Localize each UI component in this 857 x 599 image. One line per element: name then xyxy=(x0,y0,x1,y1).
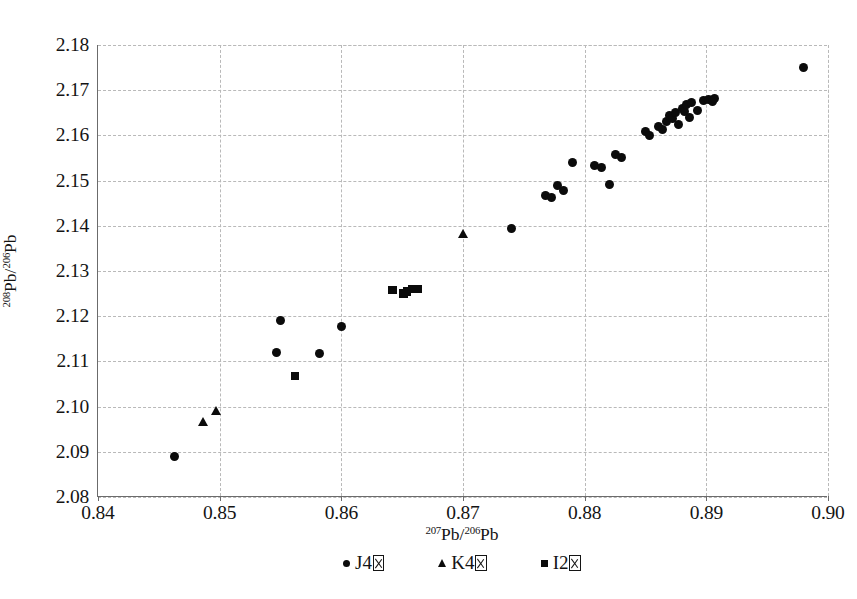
data-point-j4 xyxy=(507,224,516,233)
x-axis-title: 207Pb/206Pb xyxy=(97,524,827,545)
data-point-i2 xyxy=(414,285,423,294)
data-point-j4 xyxy=(315,349,324,358)
y-axis-tick-label: 2.17 xyxy=(56,79,98,101)
data-point-j4 xyxy=(337,322,346,331)
data-point-j4 xyxy=(276,316,285,325)
data-point-j4 xyxy=(674,120,683,129)
x-axis-tick-label: 0.84 xyxy=(81,496,114,524)
x-axis-title-isotope-207: 207 xyxy=(425,524,441,536)
square-marker-icon xyxy=(541,560,548,567)
data-point-k4 xyxy=(458,229,468,238)
x-axis-tick-label: 0.86 xyxy=(325,496,358,524)
y-axis-title: 208Pb/206Pb xyxy=(0,45,26,497)
data-point-j4 xyxy=(272,348,281,357)
legend-item-label: I2 xyxy=(553,552,581,574)
y-axis-tick-label: 2.13 xyxy=(56,260,98,282)
legend-item-j4[interactable]: J4 xyxy=(343,552,384,574)
triangle-marker-icon xyxy=(438,559,446,567)
scatter-plot-figure: 2.082.092.102.112.122.132.142.152.162.17… xyxy=(0,0,857,599)
data-point-j4 xyxy=(597,163,606,172)
chart-legend: J4K4I2 xyxy=(97,552,827,574)
missing-glyph-icon xyxy=(569,555,581,571)
y-axis-tick-label: 2.09 xyxy=(56,441,98,463)
gridline-vertical xyxy=(585,45,586,496)
data-point-j4 xyxy=(799,63,808,72)
x-axis-title-pb-end: Pb xyxy=(480,524,498,544)
missing-glyph-icon xyxy=(373,555,385,571)
data-point-j4 xyxy=(658,125,667,134)
y-axis-title-isotope-208: 208 xyxy=(0,292,12,308)
gridline-vertical xyxy=(706,45,707,496)
legend-item-label: J4 xyxy=(355,552,384,574)
data-point-k4 xyxy=(211,406,221,415)
gridline-vertical xyxy=(220,45,221,496)
gridline-vertical xyxy=(828,45,829,496)
x-axis-tick-label: 0.87 xyxy=(446,496,479,524)
y-axis-tick-label: 2.18 xyxy=(56,34,98,56)
missing-glyph-icon xyxy=(475,555,487,571)
x-axis-tick-label: 0.89 xyxy=(690,496,723,524)
data-point-j4 xyxy=(693,106,702,115)
data-point-j4 xyxy=(559,186,568,195)
data-point-j4 xyxy=(547,193,556,202)
data-point-j4 xyxy=(645,131,654,140)
y-axis-tick-label: 2.14 xyxy=(56,215,98,237)
data-point-i2 xyxy=(388,286,397,295)
y-axis-title-pb-end: Pb xyxy=(0,234,20,252)
y-axis-tick-label: 2.15 xyxy=(56,170,98,192)
gridline-horizontal xyxy=(98,45,827,46)
x-axis-tick-label: 0.85 xyxy=(203,496,236,524)
x-axis-title-pb-slash: Pb/ xyxy=(441,524,464,544)
data-point-k4 xyxy=(198,417,208,426)
data-point-i2 xyxy=(291,372,300,381)
legend-item-i2[interactable]: I2 xyxy=(541,552,581,574)
legend-item-k4[interactable]: K4 xyxy=(438,552,487,574)
x-axis-tick-label: 0.90 xyxy=(811,496,844,524)
y-axis-title-pb-slash: Pb/ xyxy=(0,269,20,292)
legend-item-label: K4 xyxy=(451,552,487,574)
y-axis-tick-label: 2.12 xyxy=(56,305,98,327)
data-point-j4 xyxy=(710,94,719,103)
y-axis-tick-label: 2.16 xyxy=(56,124,98,146)
data-point-j4 xyxy=(617,153,626,162)
plot-area: 2.082.092.102.112.122.132.142.152.162.17… xyxy=(97,45,827,497)
data-point-j4 xyxy=(170,452,179,461)
data-point-j4 xyxy=(685,113,694,122)
y-axis-title-isotope-206: 206 xyxy=(0,253,12,269)
y-axis-tick-label: 2.11 xyxy=(56,350,98,372)
data-point-j4 xyxy=(568,158,577,167)
y-axis-tick-label: 2.10 xyxy=(56,396,98,418)
x-axis-title-isotope-206: 206 xyxy=(464,524,480,536)
data-point-j4 xyxy=(605,180,614,189)
gridline-vertical xyxy=(341,45,342,496)
circle-marker-icon xyxy=(343,560,350,567)
x-axis-tick-label: 0.88 xyxy=(568,496,601,524)
gridline-vertical xyxy=(463,45,464,496)
